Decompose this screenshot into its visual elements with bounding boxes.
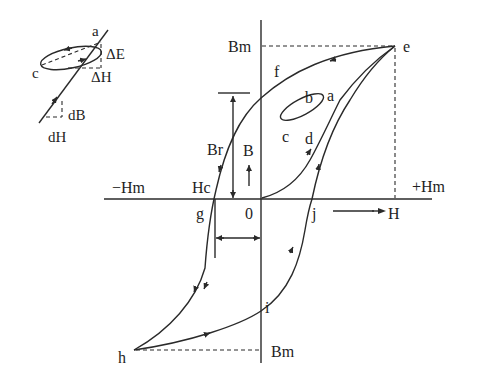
label-h-axis: H <box>388 205 400 222</box>
label-g: g <box>196 205 204 223</box>
inset-minor-loop: a c ΔE ΔH dB dH <box>32 23 125 145</box>
inset-label-db: dB <box>68 107 86 123</box>
hysteresis-diagram: a c ΔE ΔH dB dH <box>0 0 483 385</box>
arrow-up-j-icon <box>290 247 293 253</box>
inset-label-dh: dH <box>48 129 67 145</box>
inset-label-a: a <box>92 23 99 39</box>
inset-ellipse-arrow-top-icon <box>64 48 72 50</box>
label-origin: 0 <box>245 205 253 222</box>
label-neg-hm: −Hm <box>112 179 146 196</box>
label-a: a <box>327 87 334 104</box>
label-br: Br <box>207 141 224 158</box>
initial-magnetization-curve <box>262 46 395 198</box>
arrow-down-g-icon <box>204 282 207 289</box>
inset-label-c: c <box>32 65 39 81</box>
label-j: j <box>311 205 316 223</box>
label-i: i <box>265 299 270 316</box>
inset-label-delta-e: ΔE <box>106 46 125 62</box>
labels: Bm e f b a c d Br B −Hm Hc +Hm g 0 j H i… <box>112 38 446 366</box>
arrow-e-to-f-icon <box>330 59 336 61</box>
label-f: f <box>274 63 280 80</box>
arrow-up-d-icon <box>307 149 311 155</box>
label-b-axis: B <box>243 142 254 159</box>
arrow-up-right-branch-icon <box>318 164 319 170</box>
coercivity-dimension <box>215 199 260 258</box>
label-h: h <box>118 349 126 366</box>
label-b: b <box>305 89 313 106</box>
label-d: d <box>305 130 313 147</box>
label-bm-top: Bm <box>228 38 252 55</box>
minor-loop-ellipse <box>277 89 327 126</box>
label-c: c <box>282 128 289 145</box>
arrow-h-to-i-icon <box>204 333 210 335</box>
label-hc: Hc <box>192 179 211 196</box>
label-e: e <box>403 38 410 55</box>
label-pos-hm: +Hm <box>412 178 446 195</box>
label-bm-bottom: Bm <box>271 343 295 360</box>
inset-label-delta-h: ΔH <box>91 69 112 85</box>
